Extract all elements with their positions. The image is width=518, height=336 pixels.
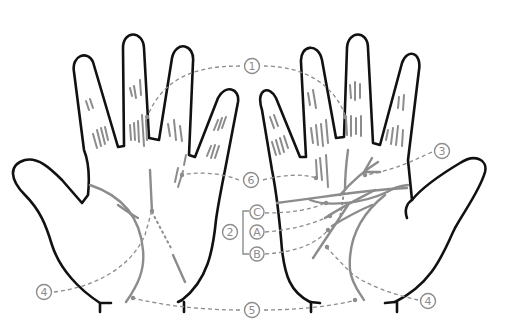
label-c: C <box>250 205 264 219</box>
svg-text:C: C <box>253 206 261 219</box>
right-fate-line <box>345 150 348 190</box>
label-5: 5 <box>245 303 260 318</box>
label-4-right: 4 <box>421 294 436 309</box>
svg-text:3: 3 <box>439 145 446 158</box>
svg-text:A: A <box>253 226 261 239</box>
leader-6-right <box>263 175 316 180</box>
label-2: 2 <box>223 225 238 240</box>
label-6: 6 <box>244 173 259 188</box>
group-2-bracket <box>243 211 249 254</box>
left-thumb-crease <box>118 205 138 218</box>
svg-text:5: 5 <box>249 304 256 317</box>
label-3: 3 <box>435 144 450 159</box>
left-fate-line-lower <box>173 255 185 282</box>
svg-text:1: 1 <box>249 60 256 73</box>
label-1: 1 <box>245 59 260 74</box>
svg-text:2: 2 <box>227 226 234 239</box>
leader-4-right <box>327 248 418 300</box>
leader-lines <box>54 66 432 310</box>
leader-a <box>265 216 330 232</box>
left-life-line <box>90 185 143 302</box>
leader-5-left <box>133 298 240 310</box>
svg-text:4: 4 <box>425 295 432 308</box>
svg-text:6: 6 <box>248 174 255 187</box>
left-fate-line-upper <box>150 170 152 212</box>
left-wrist-tick-left <box>100 303 111 312</box>
right-thumb-inner <box>406 200 412 218</box>
leader-4-left <box>54 210 152 292</box>
label-4-left: 4 <box>37 285 52 300</box>
left-fate-line-dotted <box>152 212 172 250</box>
svg-text:B: B <box>253 248 261 261</box>
palm-diagram: 1 3 6 2 C A B 4 4 5 <box>0 0 518 336</box>
right-head-line <box>277 188 407 203</box>
svg-text:4: 4 <box>41 286 48 299</box>
right-heart-line <box>310 185 408 204</box>
leader-c <box>265 203 325 213</box>
right-wrist-tick-right <box>385 302 397 312</box>
label-b: B <box>250 247 264 261</box>
right-hand-outline <box>260 35 485 303</box>
right-branch-lower <box>313 205 348 258</box>
leader-6-left <box>180 173 239 180</box>
right-life-line <box>350 195 385 300</box>
label-a: A <box>250 225 264 239</box>
